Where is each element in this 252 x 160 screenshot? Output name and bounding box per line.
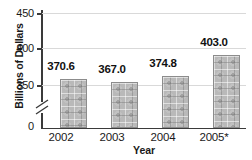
y-axis-title: Billions of Dollars bbox=[12, 6, 26, 126]
x-axis-title: Year bbox=[42, 144, 246, 156]
bar-value-2004: 374.8 bbox=[133, 57, 193, 69]
gridline-400 bbox=[42, 48, 246, 49]
bar-chart: Billions of Dollars 450 400 350 0 370.6 … bbox=[0, 0, 252, 160]
bar-value-2005: 403.0 bbox=[184, 36, 244, 48]
gridline-450 bbox=[42, 13, 246, 14]
y-tick-label-350: 350 bbox=[0, 80, 34, 91]
bar-2002[interactable] bbox=[60, 79, 87, 128]
y-tick-label-450: 450 bbox=[0, 8, 34, 19]
x-tick-label-2005: 2005* bbox=[184, 131, 244, 144]
bar-2003[interactable] bbox=[111, 82, 138, 128]
y-tick-label-400: 400 bbox=[0, 43, 34, 54]
bar-2005[interactable] bbox=[213, 55, 240, 128]
y-tick-label-0: 0 bbox=[0, 121, 34, 132]
bar-2004[interactable] bbox=[162, 76, 189, 128]
